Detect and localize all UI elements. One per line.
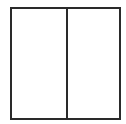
- divided-square: [10, 7, 121, 120]
- right-panel: [68, 9, 119, 118]
- left-panel: [12, 9, 68, 118]
